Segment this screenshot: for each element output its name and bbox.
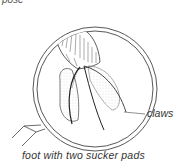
magnifier-illustration xyxy=(0,0,179,166)
figure-caption: foot with two sucker pads xyxy=(22,149,145,161)
claws-pointer-line xyxy=(124,112,145,114)
magnifier-handle-icon xyxy=(12,125,45,146)
insect-foot-drawing xyxy=(58,28,126,130)
claws-label: claws xyxy=(147,107,173,119)
